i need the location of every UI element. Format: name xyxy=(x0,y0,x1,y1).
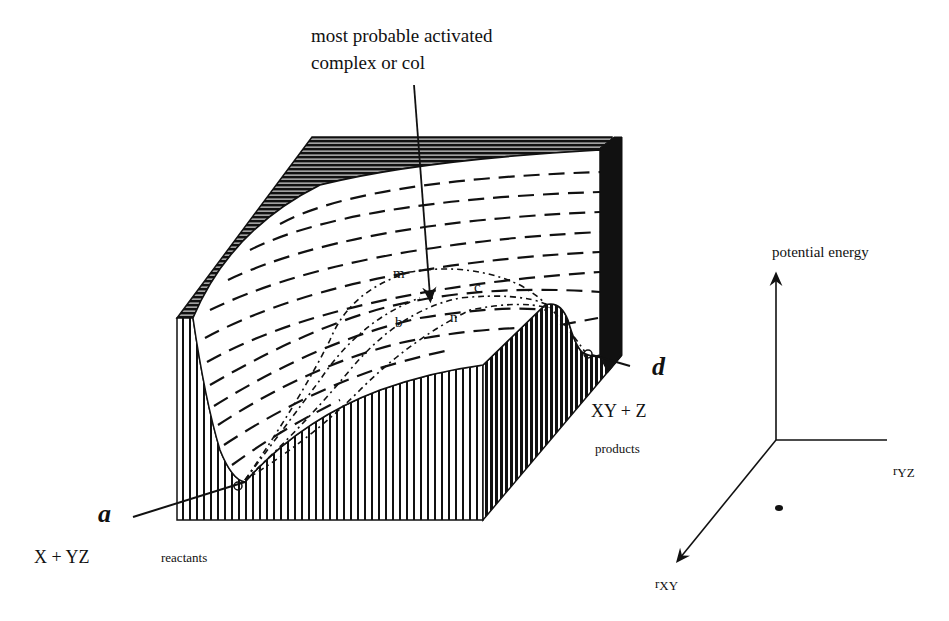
axis-label-potential-energy: potential energy xyxy=(772,244,869,260)
axes-triad xyxy=(680,278,887,558)
right-back-pillar xyxy=(600,137,622,372)
reactants-formula: X + YZ xyxy=(34,547,89,567)
path-label-c: c xyxy=(474,279,481,295)
point-a-label: a xyxy=(98,499,111,528)
callout-line-1: most probable activated xyxy=(311,25,493,46)
path-label-m: m xyxy=(393,265,405,281)
axis-label-r-xy: rXY xyxy=(655,576,679,593)
potential-energy-surface-diagram: most probable activated complex or col m… xyxy=(0,0,949,621)
products-label: products xyxy=(595,441,640,456)
axis-r-yz-sub: YZ xyxy=(897,465,914,480)
surface-block xyxy=(133,85,630,520)
path-label-b: b xyxy=(395,314,403,330)
products-formula: XY + Z xyxy=(591,401,646,421)
axis-r-xy-sub: XY xyxy=(659,578,678,593)
reactants-label: reactants xyxy=(161,550,207,565)
path-label-n: n xyxy=(450,309,458,325)
origin-dot xyxy=(775,505,783,511)
point-d-label: d xyxy=(652,352,666,381)
callout-line-2: complex or col xyxy=(311,52,425,73)
axis-label-r-yz: rYZ xyxy=(893,463,915,480)
axis-r-xy xyxy=(680,440,776,558)
